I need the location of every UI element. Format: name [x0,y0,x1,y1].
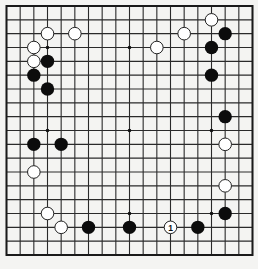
black-stone [27,68,40,81]
black-stone-disc [27,138,40,151]
white-stone [55,221,68,234]
star-point [210,212,214,216]
white-stone [28,41,41,54]
black-stone-disc [205,68,218,81]
go-board-svg[interactable]: 1 [0,0,258,269]
black-stone-disc [82,221,95,234]
star-point [210,129,214,133]
move-number-label: 1 [168,223,173,233]
black-stone [54,138,67,151]
black-stone-disc [123,221,136,234]
white-stone-disc [219,180,232,193]
white-stone [28,166,41,179]
black-stone [123,221,136,234]
black-stone [218,27,231,40]
white-stone [219,138,232,151]
white-stone-disc [28,41,41,54]
white-stone [41,27,54,40]
go-board[interactable]: 1 [0,0,258,269]
black-stone [205,41,218,54]
white-stone [151,41,164,54]
black-stone-disc [218,27,231,40]
white-stone-disc [178,27,191,40]
white-stone: 1 [164,221,177,234]
black-stone-disc [27,68,40,81]
black-stone [191,221,204,234]
white-stone-disc [151,41,164,54]
white-stone-disc [219,138,232,151]
star-point [128,129,132,133]
black-stone-disc [218,110,231,123]
black-stone [218,207,231,220]
black-stone-disc [218,207,231,220]
white-stone-disc [55,221,68,234]
black-stone [41,55,54,68]
white-stone [28,55,41,68]
white-stone-disc [28,166,41,179]
black-stone [82,221,95,234]
black-stone-disc [205,41,218,54]
white-stone-disc [205,14,218,27]
white-stone [205,14,218,27]
black-stone [41,82,54,95]
white-stone [41,207,54,220]
black-stone-disc [191,221,204,234]
white-stone [69,27,82,40]
black-stone [27,138,40,151]
black-stone [218,110,231,123]
white-stone-disc [41,207,54,220]
star-point [46,129,50,133]
white-stone-disc [28,55,41,68]
white-stone [178,27,191,40]
black-stone-disc [41,55,54,68]
white-stone [219,180,232,193]
white-stone-disc [41,27,54,40]
star-point [128,212,132,216]
star-point [46,46,50,50]
star-point [128,46,132,50]
black-stone [205,68,218,81]
black-stone-disc [54,138,67,151]
black-stone-disc [41,82,54,95]
white-stone-disc [69,27,82,40]
